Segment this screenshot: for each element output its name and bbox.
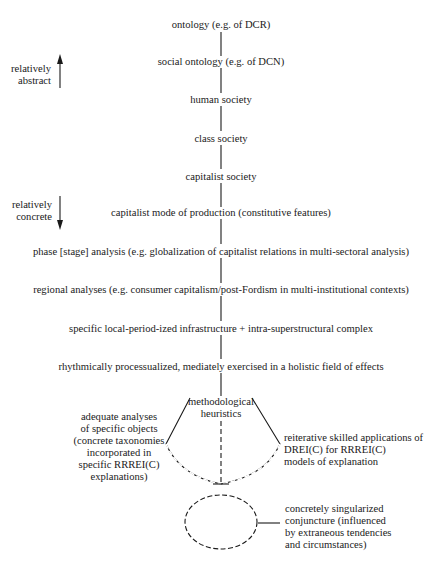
level-specific-local-complex: specific local-period-ized infrastructur… [0, 323, 430, 335]
diagram-lines [0, 0, 430, 561]
level-class-society: class society [0, 133, 430, 145]
level-phase-analysis: phase [stage] analysis (e.g. globalizati… [0, 246, 430, 258]
conjuncture-line1: concretely singularized [285, 503, 425, 515]
heuristics-line1: methodological [181, 396, 261, 408]
conjuncture-line4: and circumstances) [285, 539, 425, 551]
left-note-line5: specific RRREI(C) [70, 459, 168, 471]
level-ontology: ontology (e.g. of DCR) [0, 19, 430, 31]
left-note-line6: explanations) [70, 471, 168, 483]
level-capitalist-mode-of-production: capitalist mode of production (constitut… [0, 207, 430, 219]
methodological-heuristics-label: methodological heuristics [181, 396, 261, 420]
right-note-line1: reiterative skilled applications of [284, 432, 430, 444]
axis-label-abstract: relatively abstract [0, 63, 51, 87]
axis-label-concrete: relatively concrete [0, 199, 52, 223]
level-capitalist-society: capitalist society [0, 171, 430, 183]
conjuncture-line3: by extraneous tendencies [285, 527, 425, 539]
axis-concrete-line2: concrete [0, 211, 52, 223]
arrow-down-icon [57, 220, 63, 230]
level-rhythmically-processualized: rhythmically processualized, mediately e… [0, 361, 430, 373]
conjuncture-ellipse [185, 495, 257, 549]
left-note-line1: adequate analyses [70, 411, 168, 423]
heuristics-line2: heuristics [181, 408, 261, 420]
axis-abstract-line1: relatively [0, 63, 51, 75]
left-note-line2: of specific objects [70, 423, 168, 435]
adequate-analyses-note: adequate analyses of specific objects (c… [70, 411, 168, 483]
level-regional-analyses: regional analyses (e.g. consumer capital… [0, 284, 430, 296]
left-note-line3: (concrete taxonomies [70, 435, 168, 447]
axis-abstract-line2: abstract [0, 75, 51, 87]
right-note-line2: DREI(C) for RRREI(C) [284, 444, 430, 456]
level-social-ontology: social ontology (e.g. of DCN) [0, 56, 430, 68]
axis-concrete-line1: relatively [0, 199, 52, 211]
left-note-line4: incorporated in [70, 447, 168, 459]
conjuncture-line2: conjuncture (influenced [285, 515, 425, 527]
conjuncture-note: concretely singularized conjuncture (inf… [285, 503, 425, 551]
right-note-line3: models of explanation [284, 456, 430, 468]
level-human-society: human society [0, 94, 430, 106]
reiterative-applications-note: reiterative skilled applications of DREI… [284, 432, 430, 468]
